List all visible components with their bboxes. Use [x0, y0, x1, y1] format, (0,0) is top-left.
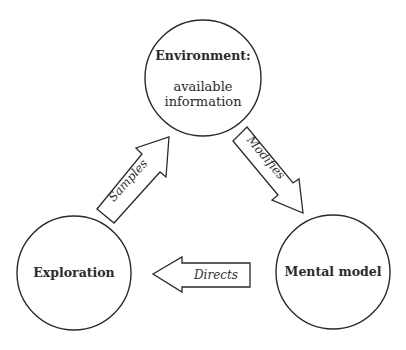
node-mental-model-title: Mental model — [285, 264, 382, 279]
node-environment-title: Environment: — [155, 48, 250, 63]
edge-directs-label: Directs — [193, 268, 238, 282]
node-mental-model: Mental model — [276, 215, 390, 329]
edge-samples: Samples — [97, 137, 169, 223]
edge-directs: Directs — [153, 257, 250, 292]
edge-modifies: Modifies — [233, 127, 303, 213]
node-environment-subtitle-2: information — [164, 94, 242, 109]
node-exploration-title: Exploration — [33, 265, 114, 280]
node-environment-circle — [145, 20, 261, 136]
cycle-diagram: Environment: available information Explo… — [0, 0, 406, 350]
node-exploration: Exploration — [17, 216, 131, 330]
node-environment: Environment: available information — [145, 20, 261, 136]
node-environment-subtitle-1: available — [173, 79, 232, 94]
